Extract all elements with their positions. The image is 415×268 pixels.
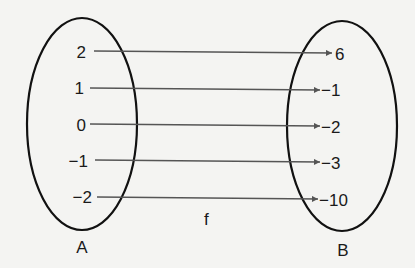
set-b-element: −10	[319, 191, 348, 210]
set-b-element: 6	[335, 45, 344, 64]
set-a-element: 2	[77, 43, 86, 62]
mapping-arrow	[94, 51, 332, 53]
mapping-diagram: 2 1 0 −1 −2 6 −1 −2 −3 −10 f A B	[0, 0, 415, 268]
set-b-element: −2	[321, 118, 340, 137]
function-label: f	[204, 210, 209, 229]
set-a-label: A	[76, 238, 88, 257]
set-a-element: 1	[75, 79, 84, 98]
set-b-element: −3	[321, 154, 340, 173]
set-a-element: 0	[77, 116, 86, 135]
set-b-element: −1	[321, 81, 340, 100]
mapping-arrow	[95, 160, 320, 162]
set-a-element: −2	[73, 188, 92, 207]
set-b-label: B	[337, 241, 348, 260]
mapping-arrow	[90, 124, 320, 126]
mapping-arrow	[90, 88, 320, 90]
mapping-arrow	[97, 197, 318, 199]
set-a-element: −1	[69, 152, 88, 171]
